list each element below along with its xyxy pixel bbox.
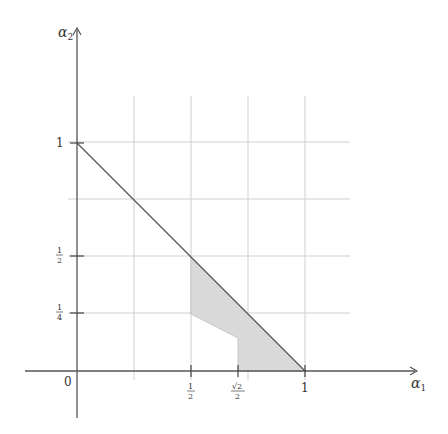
origin-label: 0 <box>64 375 72 389</box>
y-axis-label: α2 <box>58 24 73 42</box>
grid <box>68 96 350 380</box>
x-tick-1: 1 <box>301 381 309 395</box>
axes <box>25 30 415 418</box>
svg-text:1: 1 <box>57 246 62 255</box>
y-tick-half: 1 2 <box>56 246 63 265</box>
svg-text:2: 2 <box>235 392 240 401</box>
x-tick-half: 1 2 <box>187 382 195 401</box>
y-tick-1: 1 <box>56 136 64 150</box>
svg-text:4: 4 <box>57 313 62 322</box>
svg-text:√2: √2 <box>232 382 242 391</box>
svg-text:2: 2 <box>57 256 62 265</box>
y-tick-quarter: 1 4 <box>56 303 63 322</box>
svg-text:2: 2 <box>188 392 193 401</box>
diagram-canvas: α2 α1 0 1 1 2 1 4 1 2 √2 2 1 <box>0 0 448 434</box>
svg-text:1: 1 <box>188 382 193 391</box>
svg-text:1: 1 <box>57 303 62 312</box>
x-tick-sqrt2-half: √2 2 <box>231 382 245 401</box>
x-axis-label: α1 <box>411 375 426 393</box>
